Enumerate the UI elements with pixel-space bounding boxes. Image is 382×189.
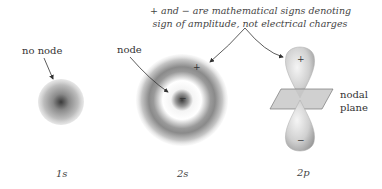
- annotation-text: + and − are mathematical signs denoting …: [150, 4, 350, 30]
- label-node: node: [117, 44, 142, 55]
- caption-1s: 1s: [56, 168, 68, 179]
- orbital-1s: [38, 58, 84, 125]
- annotation-line2: sign of amplitude, not electrical charge…: [150, 17, 350, 30]
- sign-plus-2p: +: [297, 54, 305, 64]
- caption-2p: 2p: [297, 167, 310, 178]
- arrow-annotation-2s: [210, 28, 245, 62]
- arrow-no-node: [44, 58, 53, 79]
- caption-2s: 2s: [177, 168, 189, 179]
- sign-minus-2s: −: [179, 93, 187, 103]
- sign-minus-2p: −: [297, 135, 305, 145]
- annotation-line1: + and − are mathematical signs denoting: [150, 4, 350, 17]
- label-no-node: no node: [22, 45, 62, 56]
- arrow-annotation-2p: [245, 28, 283, 57]
- label-nodal: nodal: [340, 88, 368, 101]
- label-nodal-plane: nodal plane: [340, 88, 368, 114]
- label-plane: plane: [340, 101, 368, 114]
- sign-plus-2s: +: [193, 62, 201, 72]
